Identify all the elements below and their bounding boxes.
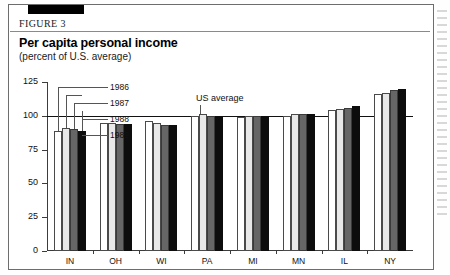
bar-oh-1987 (108, 123, 116, 251)
legend-connector (74, 103, 82, 104)
x-axis-tick (139, 250, 140, 254)
legend-label: 1986 (110, 82, 129, 92)
legend-label: 1989 (110, 130, 129, 140)
legend-leader-line (82, 111, 83, 131)
bar-oh-1986 (100, 123, 108, 251)
chart-subtitle: (percent of U.S. average) (19, 51, 131, 62)
y-axis-tick-label: 75 (12, 144, 38, 154)
x-axis-tick (367, 250, 368, 254)
y-axis-tick-label: 50 (12, 177, 38, 187)
legend-leader-line (66, 95, 67, 128)
chart-title: Per capita personal income (19, 36, 178, 50)
x-axis-label-il: IL (341, 256, 348, 266)
legend-label: 1987 (110, 98, 129, 108)
legend-label: 1988 (110, 114, 129, 124)
legend-connector (66, 95, 82, 96)
bar-mi-1986 (237, 117, 245, 251)
bar-group (237, 82, 269, 251)
page-edge-column (437, 10, 447, 260)
legend-leader-line (74, 103, 75, 129)
bar-group (283, 82, 315, 251)
bar-in-1989 (78, 131, 86, 251)
decorative-black-bar (28, 5, 84, 14)
legend-connector (58, 87, 82, 88)
bar-group (328, 82, 360, 251)
bar-in-1987 (62, 128, 70, 251)
bar-ny-1989 (398, 89, 406, 251)
x-axis-tick (322, 250, 323, 254)
y-axis-tick-label: 100 (12, 110, 38, 120)
legend-leader-dash (82, 87, 108, 88)
legend-leader-dash (82, 103, 108, 104)
legend-leader-line (58, 87, 59, 131)
y-axis-tick-label: 25 (12, 211, 38, 221)
y-axis-tick (42, 251, 47, 252)
bar-mi-1988 (253, 116, 261, 251)
x-axis-tick (230, 250, 231, 254)
bar-wi-1988 (161, 125, 169, 251)
bar-il-1988 (344, 108, 352, 251)
bar-pa-1988 (207, 116, 215, 251)
x-axis-tick (93, 250, 94, 254)
bar-group (145, 82, 177, 251)
x-axis-label-ny: NY (384, 256, 396, 266)
bar-mi-1987 (245, 116, 253, 251)
x-axis-label-in: IN (66, 256, 75, 266)
legend-leader-dash (82, 119, 108, 120)
bar-ny-1987 (382, 93, 390, 251)
x-axis-label-oh: OH (109, 256, 122, 266)
bar-group (191, 82, 223, 251)
bar-in-1986 (54, 131, 62, 251)
bar-mn-1988 (299, 114, 307, 251)
bar-il-1986 (328, 110, 336, 251)
header-divider (10, 31, 430, 32)
bar-wi-1987 (153, 123, 161, 251)
bar-wi-1989 (169, 125, 177, 251)
legend-leader-dash (82, 135, 108, 136)
x-axis-tick (276, 250, 277, 254)
x-axis-label-pa: PA (202, 256, 213, 266)
bar-wi-1986 (145, 121, 153, 251)
figure-number: FIGURE 3 (19, 18, 66, 29)
bar-ny-1986 (374, 94, 382, 251)
x-axis-label-mi: MI (248, 256, 257, 266)
bar-mn-1989 (307, 114, 315, 251)
x-axis-tick (184, 250, 185, 254)
x-axis-label-mn: MN (292, 256, 305, 266)
bar-il-1989 (352, 106, 360, 251)
bar-group (374, 82, 406, 251)
bar-mn-1986 (283, 116, 291, 251)
bar-mn-1987 (291, 114, 299, 251)
plot-area (47, 82, 413, 251)
y-axis-tick-label: 0 (12, 245, 38, 255)
bar-in-1988 (70, 129, 78, 251)
x-axis-label-wi: WI (156, 256, 166, 266)
bar-pa-1989 (215, 116, 223, 251)
bar-mi-1989 (261, 116, 269, 251)
bar-il-1987 (336, 109, 344, 251)
bar-oh-1989 (124, 124, 132, 251)
bar-oh-1988 (116, 124, 124, 251)
bar-pa-1987 (199, 114, 207, 251)
figure-page: FIGURE 3 Per capita personal income (per… (0, 0, 450, 275)
bar-ny-1988 (390, 90, 398, 251)
bar-pa-1986 (191, 116, 199, 251)
y-axis-tick-label: 125 (12, 76, 38, 86)
